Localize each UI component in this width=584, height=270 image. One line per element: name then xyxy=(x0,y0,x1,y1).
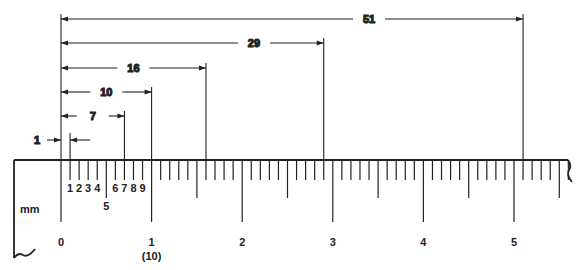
dimension-label: 29 xyxy=(248,37,260,49)
arrowhead-left xyxy=(61,114,68,119)
major-label: 0 xyxy=(58,236,64,248)
minor-label: 4 xyxy=(94,182,101,194)
arrowhead-right xyxy=(317,41,324,46)
minor-label: 8 xyxy=(130,182,136,194)
dimension-label: 16 xyxy=(127,62,139,74)
ruler-ticks xyxy=(61,160,568,222)
dimension-10mm: 10 xyxy=(61,86,152,160)
dimension-lines: 1710162951 xyxy=(34,13,523,160)
arrowhead-right xyxy=(145,90,152,95)
arrowhead-right xyxy=(516,17,523,22)
major-label: 3 xyxy=(330,236,336,248)
major-label: 2 xyxy=(239,236,245,248)
dimension-1mm: 1 xyxy=(34,133,90,160)
minor-label: 5 xyxy=(103,200,109,212)
major-label: 1 xyxy=(149,236,155,248)
arrowhead-right xyxy=(199,66,206,71)
dimension-label: 51 xyxy=(363,13,375,25)
unit-label: mm xyxy=(20,203,40,215)
dimension-label: 7 xyxy=(90,110,96,122)
dimension-29mm: 29 xyxy=(61,37,324,160)
dimension-16mm: 16 xyxy=(61,62,206,160)
minor-label: 2 xyxy=(76,182,82,194)
minor-label: 6 xyxy=(112,182,118,194)
major-label: 5 xyxy=(511,236,517,248)
minor-label: 9 xyxy=(139,182,145,194)
arrowhead-left xyxy=(61,41,68,46)
dimension-51mm: 51 xyxy=(61,13,523,160)
arrowhead-left xyxy=(70,138,77,143)
dimension-label: 1 xyxy=(34,134,40,146)
dimension-label: 10 xyxy=(100,86,112,98)
minor-label: 7 xyxy=(121,182,127,194)
minor-label: 1 xyxy=(67,182,73,194)
minor-label: 3 xyxy=(85,182,91,194)
arrowhead-right xyxy=(117,114,124,119)
major-label: 4 xyxy=(420,236,427,248)
arrowhead-right xyxy=(54,138,61,143)
arrowhead-left xyxy=(61,90,68,95)
ruler-diagram: 012345(10)123456789 1710162951 mm xyxy=(0,0,584,270)
arrowhead-left xyxy=(61,17,68,22)
arrowhead-left xyxy=(61,66,68,71)
ruler-svg: 012345(10)123456789 1710162951 mm xyxy=(0,0,584,270)
sub-label-10mm: (10) xyxy=(142,250,162,262)
